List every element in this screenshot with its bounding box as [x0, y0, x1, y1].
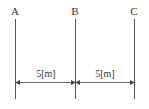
point-label-b: B [71, 5, 78, 17]
point-label-c: C [130, 5, 137, 17]
dimension-label-bc: 5[m] [95, 68, 114, 79]
dimension-label-ab: 5[m] [36, 68, 55, 79]
diagram-canvas: A B C 5[m] 5[m] [0, 0, 149, 109]
point-label-a: A [11, 5, 19, 17]
